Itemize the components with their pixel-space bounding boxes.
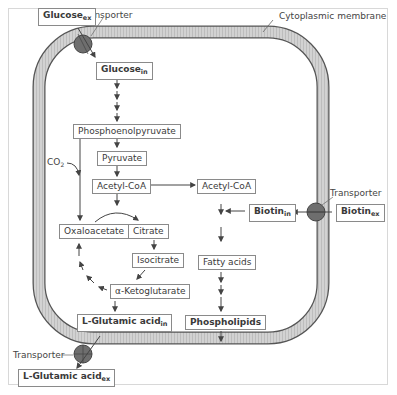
transporter-label-glutamic: Transporter [13, 350, 64, 360]
node-pyruvate: Pyruvate [97, 151, 147, 166]
node-biotin-in: Biotinin [249, 204, 296, 222]
membrane-label: Cytoplasmic membrane [279, 11, 386, 21]
transporter-label-biotin: Transporter [330, 188, 381, 198]
node-phosphoenolpyruvate: Phosphoenolpyruvate [73, 124, 181, 139]
node-l-glutamic-acid-in: L-Glutamic acidin [77, 314, 172, 332]
node-fatty-acids: Fatty acids [198, 255, 256, 270]
node-acetyl-coa-2: Acetyl-CoA [197, 179, 256, 194]
node-glucose-in: Glucosein [96, 62, 153, 80]
node-oxaloacetate: Oxaloacetate [59, 224, 129, 239]
co2-label: CO2 [47, 157, 64, 168]
node-biotin-ex: Biotinex [336, 204, 385, 222]
node-phospholipids: Phospholipids [185, 315, 266, 330]
node-acetyl-coa-1: Acetyl-CoA [92, 179, 151, 194]
node-citrate: Citrate [128, 224, 169, 239]
node-alpha-ketoglutarate: α-Ketoglutarate [110, 284, 190, 299]
node-isocitrate: Isocitrate [132, 253, 184, 268]
node-glucose-ex: Glucoseex [38, 8, 96, 26]
node-l-glutamic-acid-ex: L-Glutamic acidex [18, 369, 115, 387]
